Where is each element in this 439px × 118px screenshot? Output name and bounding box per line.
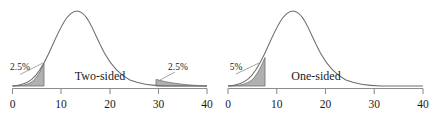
- x-axis-label-30: 30: [153, 98, 165, 110]
- shaded-right-tail-two-sided: [156, 79, 207, 86]
- leader-line-right-two-sided: [160, 72, 175, 80]
- x-axis-label-40: 40: [417, 98, 429, 110]
- x-axis-label-0: 0: [10, 98, 16, 110]
- x-axis-label-30: 30: [369, 98, 381, 110]
- x-axis-label-20: 20: [104, 98, 116, 110]
- x-axis-label-10: 10: [55, 98, 67, 110]
- statistics-figure: 0 10 20 30 40 2.5% 2.5% Two-sided: [0, 0, 439, 118]
- x-axis-label-10: 10: [271, 98, 283, 110]
- left-tail-percent-label-two-sided: 2.5%: [10, 62, 30, 72]
- x-axis-label-0: 0: [225, 98, 231, 110]
- x-axis-label-40: 40: [201, 98, 213, 110]
- panel-one-sided: 0 10 20 30 40 5% One-sided: [219, 0, 439, 118]
- right-tail-percent-label-two-sided: 2.5%: [168, 62, 188, 72]
- panel-label-two-sided: Two-sided: [75, 69, 125, 83]
- left-tail-percent-label-one-sided: 5%: [230, 62, 243, 72]
- x-axis-label-20: 20: [320, 98, 332, 110]
- panel-two-sided: 0 10 20 30 40 2.5% 2.5% Two-sided: [0, 0, 220, 118]
- panel-label-one-sided: One-sided: [291, 69, 340, 83]
